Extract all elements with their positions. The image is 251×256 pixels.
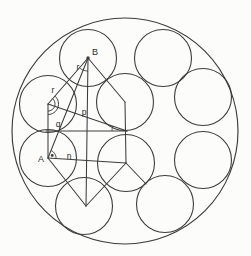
segment-center-lower-to-bottom-right bbox=[126, 163, 146, 184]
angle-dot-A bbox=[51, 154, 54, 157]
circle-top-right bbox=[135, 30, 192, 87]
label-r-lower: r bbox=[52, 85, 55, 95]
segment-B-vertical bbox=[86, 58, 88, 206]
label-r-upper: r bbox=[77, 62, 80, 72]
packing-diagram: BrrpqAn bbox=[0, 0, 251, 256]
circle-right-upper bbox=[175, 69, 232, 126]
segment-B-to-left-upper-center bbox=[48, 58, 88, 104]
segment-center-upper-to-B bbox=[88, 58, 125, 102]
angle-arc-at-big-center bbox=[112, 126, 113, 131]
label-A: A bbox=[38, 154, 44, 164]
label-B: B bbox=[92, 47, 98, 57]
vertex-dot-B bbox=[86, 56, 89, 59]
label-q: q bbox=[56, 119, 61, 129]
diagram-svg: BrrpqAn bbox=[0, 0, 251, 256]
circle-right-lower bbox=[175, 132, 232, 189]
label-p: p bbox=[82, 107, 87, 117]
segment-center-lower-to-center-upper bbox=[125, 102, 126, 163]
segment-bottom-left-center-to-center-lower bbox=[86, 163, 126, 206]
segment-A-to-bottom-left-center bbox=[48, 158, 86, 206]
label-n: n bbox=[67, 151, 72, 161]
